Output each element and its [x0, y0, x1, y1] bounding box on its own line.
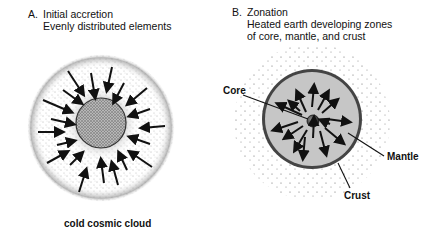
zoned-earth: [262, 69, 362, 169]
accretion-core: [76, 98, 126, 148]
diagram-canvas: [0, 0, 430, 232]
